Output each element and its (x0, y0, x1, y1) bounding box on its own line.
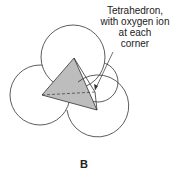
annotation-label: Tetrahedron, with oxygen ion at each cor… (98, 5, 171, 49)
figure-label: B (80, 158, 88, 170)
annotation-line-4: corner (98, 38, 171, 49)
annotation-line-3: at each (98, 27, 171, 38)
annotation-line-1: Tetrahedron, (98, 5, 171, 16)
annotation-line-2: with oxygen ion (98, 16, 171, 27)
